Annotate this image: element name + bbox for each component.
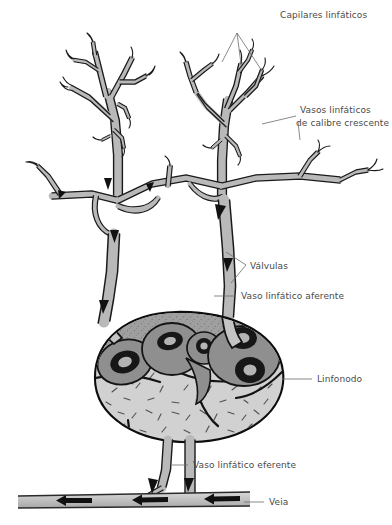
- label-vasos-calibre-line1: Vasos linfáticos: [300, 105, 371, 115]
- label-vaso-linfatico-eferente: Vaso linfático eferente: [193, 460, 296, 470]
- label-linfonodo: Linfonodo: [317, 374, 363, 384]
- label-capilares-linfaticos: Capilares linfáticos: [280, 10, 367, 20]
- label-vasos-calibre-line2: de calibre crescente: [296, 118, 389, 128]
- label-valvulas: Válvulas: [250, 261, 288, 271]
- label-veia: Veia: [269, 497, 288, 507]
- label-vaso-linfatico-aferente: Vaso linfático aferente: [241, 291, 344, 301]
- lymphatic-system-diagram: Capilares linfáticos Vasos linfáticos de…: [0, 0, 392, 525]
